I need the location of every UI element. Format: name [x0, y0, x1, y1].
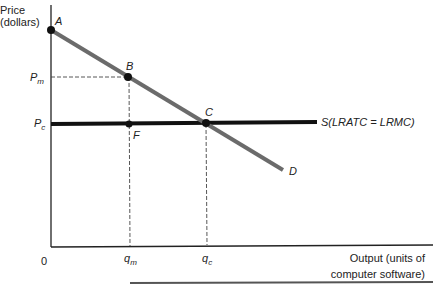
bottom-rule — [130, 282, 433, 283]
point-f-label: F — [133, 129, 140, 141]
origin-label: 0 — [41, 255, 47, 267]
x-axis-label-line2: computer software) — [331, 268, 425, 280]
quantity-qm-label: qm — [124, 252, 137, 264]
point-a-label: A — [55, 15, 62, 27]
supply-curve-label: S(LRATC = LRMC) — [321, 116, 415, 128]
y-axis-label-line1: Price — [0, 4, 40, 16]
x-axis — [51, 245, 433, 247]
x-axis-label-line1: Output (units of — [331, 252, 425, 264]
qc-sub: c — [208, 258, 212, 267]
price-pc-label: Pc — [34, 117, 45, 129]
supply-curve — [51, 122, 317, 124]
point-b — [124, 73, 132, 81]
point-a — [47, 26, 55, 34]
pm-sub: m — [37, 77, 44, 86]
y-axis-label-line2: (dollars) — [0, 16, 40, 28]
qm-sub: m — [130, 258, 137, 267]
point-c — [202, 119, 210, 127]
price-pm-label: Pm — [30, 71, 44, 83]
demand-curve — [51, 30, 283, 170]
point-c-label: C — [205, 106, 213, 118]
pc-sub: c — [41, 123, 45, 132]
demand-curve-label: D — [289, 165, 297, 177]
x-axis-label: Output (units of computer software) — [331, 252, 425, 280]
point-b-label: B — [126, 60, 133, 72]
qm-dashed-guide — [129, 77, 130, 246]
diagram-canvas — [0, 0, 433, 288]
qc-dashed-guide — [206, 124, 207, 245]
y-axis-label: Price (dollars) — [0, 4, 40, 28]
point-f — [126, 121, 133, 128]
quantity-qc-label: qc — [202, 252, 212, 264]
